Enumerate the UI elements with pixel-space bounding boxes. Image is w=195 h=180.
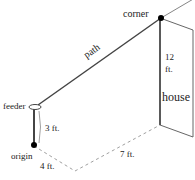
path-line <box>38 18 161 105</box>
house-wall <box>160 18 193 137</box>
dist-y-label: 7 ft. <box>120 150 135 159</box>
dist-x-label: 4 ft. <box>40 162 55 171</box>
corner-label: corner <box>123 9 149 19</box>
feeder-height-bracket <box>39 111 41 143</box>
feeder-icon <box>29 105 41 110</box>
corner-dot <box>158 15 164 21</box>
origin-label: origin <box>11 152 33 161</box>
house-label: house <box>162 91 190 103</box>
house-height-unit: ft. <box>165 65 173 74</box>
path-extension-line <box>161 0 195 18</box>
feeder-height-label: 3 ft. <box>45 124 60 133</box>
diagram-canvas: corner path feeder 3 ft. origin 4 ft. 7 … <box>0 0 195 180</box>
origin-dot <box>31 142 37 148</box>
feeder-label: feeder <box>3 102 25 111</box>
house-height-number: 12 <box>165 53 174 62</box>
